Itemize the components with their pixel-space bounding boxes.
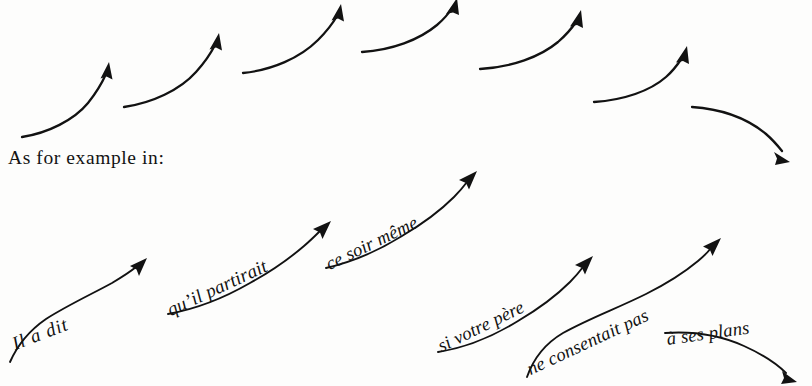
phrase-label-5: ne consentait pas	[524, 306, 651, 378]
phrase-label-1: Il a dit	[9, 314, 71, 353]
contour-arrow-6	[594, 46, 689, 102]
contour-arrow-5	[480, 10, 583, 69]
phrase-label-4: si votre père	[435, 298, 527, 356]
contour-arrow-2	[124, 33, 222, 107]
contour-arrow-3	[243, 4, 344, 73]
phrase-label-6: à ses plans	[665, 319, 750, 349]
phrase-label-3: ce soir même	[323, 213, 421, 273]
phrase-label-2: qu’il partirait	[164, 256, 270, 319]
figure-page: As for example in:	[0, 0, 812, 386]
caption-text: As for example in:	[8, 148, 164, 168]
contour-arrow-1	[22, 62, 113, 137]
contour-arrow-7	[692, 107, 790, 165]
contour-arrow-4	[362, 0, 459, 52]
